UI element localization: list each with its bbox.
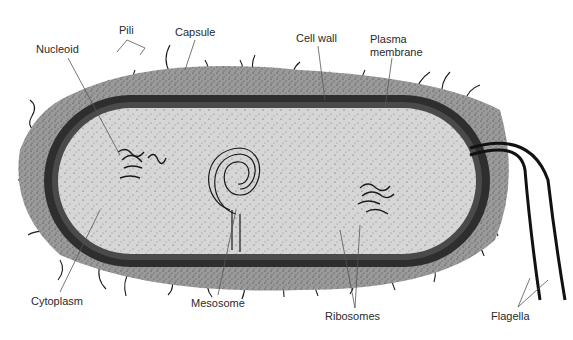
bacterial-cell-diagram <box>0 0 573 340</box>
label-ribosomes: Ribosomes <box>325 310 380 322</box>
label-plasma-membrane-1: Plasma <box>370 33 407 45</box>
label-capsule: Capsule <box>175 26 215 38</box>
label-cell-wall: Cell wall <box>296 32 337 44</box>
label-plasma-membrane-2: membrane <box>370 46 423 58</box>
label-cytoplasm: Cytoplasm <box>31 295 83 307</box>
label-flagella: Flagella <box>491 310 530 322</box>
label-pili: Pili <box>119 24 134 36</box>
label-mesosome: Mesosome <box>191 297 245 309</box>
cytoplasm <box>58 108 476 254</box>
label-nucleoid: Nucleoid <box>36 43 79 55</box>
